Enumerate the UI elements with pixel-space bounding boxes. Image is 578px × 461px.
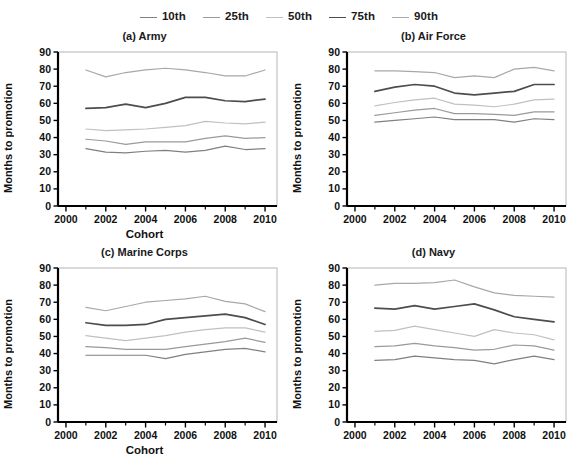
x-tick-label: 2004 — [134, 213, 158, 225]
series-line-75th — [375, 85, 554, 95]
legend-line-swatch-icon — [329, 17, 346, 18]
panel-title-navy: (d) Navy — [289, 246, 578, 258]
y-tick-label: 90 — [39, 262, 51, 274]
y-tick-label: 90 — [328, 262, 340, 274]
plot-area-panel-b: 0102030405060708090200020022004200620082… — [289, 28, 578, 244]
series-line-50th — [375, 98, 554, 107]
series-line-10th — [86, 348, 265, 358]
y-axis-label-air-force: Months to promotion — [291, 78, 305, 198]
series-line-50th — [375, 326, 554, 340]
plot-area-panel-c: 0102030405060708090200020022004200620082… — [0, 244, 289, 460]
x-tick-label: 2004 — [134, 429, 158, 441]
y-tick-label: 10 — [328, 182, 340, 194]
x-tick-label: 2000 — [54, 213, 78, 225]
legend-label: 50th — [288, 11, 312, 23]
legend-line-swatch-icon — [392, 17, 409, 18]
y-tick-label: 0 — [334, 416, 340, 428]
y-tick-label: 80 — [39, 63, 51, 75]
y-tick-label: 90 — [39, 46, 51, 58]
series-line-10th — [375, 356, 554, 364]
legend-item-90th: 90th — [392, 11, 438, 23]
legend-item-10th: 10th — [140, 11, 186, 23]
y-tick-label: 80 — [39, 279, 51, 291]
y-tick-label: 50 — [328, 114, 340, 126]
y-tick-label: 60 — [328, 313, 340, 325]
plot-area-panel-d: 0102030405060708090200020022004200620082… — [289, 244, 578, 460]
x-tick-label: 2004 — [423, 213, 447, 225]
y-tick-label: 20 — [39, 165, 51, 177]
series-line-75th — [86, 97, 265, 108]
panel-title-army: (a) Army — [0, 30, 289, 42]
y-axis-label-marine-corps: Months to promotion — [2, 294, 16, 414]
legend-label: 25th — [225, 11, 249, 23]
series-line-25th — [86, 136, 265, 145]
series-line-25th — [86, 338, 265, 349]
series-line-90th — [375, 67, 554, 77]
y-axis-label-army: Months to promotion — [2, 78, 16, 198]
series-line-10th — [375, 117, 554, 122]
y-tick-label: 50 — [39, 114, 51, 126]
legend-line-swatch-icon — [266, 17, 283, 18]
x-tick-label: 2006 — [174, 429, 198, 441]
y-tick-label: 40 — [39, 347, 51, 359]
x-tick-label: 2000 — [54, 429, 78, 441]
chart-panel-navy: 0102030405060708090200020022004200620082… — [289, 244, 578, 460]
x-tick-label: 2006 — [463, 213, 487, 225]
x-tick-label: 2008 — [214, 429, 238, 441]
series-line-90th — [375, 280, 554, 297]
y-tick-label: 60 — [39, 97, 51, 109]
y-tick-label: 10 — [39, 398, 51, 410]
plot-area-panel-a: 0102030405060708090200020022004200620082… — [0, 28, 289, 244]
y-tick-label: 0 — [45, 416, 51, 428]
series-line-90th — [86, 296, 265, 311]
x-tick-label: 2002 — [94, 213, 118, 225]
y-tick-label: 80 — [328, 279, 340, 291]
series-line-50th — [86, 121, 265, 130]
y-tick-label: 40 — [328, 131, 340, 143]
chart-panel-marine-corps: 0102030405060708090200020022004200620082… — [0, 244, 289, 460]
x-tick-label: 2010 — [253, 213, 277, 225]
series-line-25th — [375, 108, 554, 115]
y-tick-label: 20 — [328, 381, 340, 393]
legend-item-75th: 75th — [329, 11, 375, 23]
figure-quartile-months-to-promotion: 10th25th50th75th90th 0102030405060708090… — [0, 0, 578, 461]
chart-legend: 10th25th50th75th90th — [0, 6, 578, 28]
legend-label: 75th — [351, 11, 375, 23]
y-tick-label: 0 — [334, 200, 340, 212]
x-tick-label: 2008 — [503, 213, 527, 225]
y-tick-label: 30 — [39, 148, 51, 160]
legend-item-50th: 50th — [266, 11, 312, 23]
x-tick-label: 2008 — [214, 213, 238, 225]
x-tick-label: 2010 — [542, 429, 566, 441]
x-tick-label: 2002 — [94, 429, 118, 441]
y-axis-label-navy: Months to promotion — [291, 294, 305, 414]
y-tick-label: 10 — [39, 182, 51, 194]
y-tick-label: 80 — [328, 63, 340, 75]
y-tick-label: 30 — [328, 364, 340, 376]
legend-line-swatch-icon — [140, 17, 157, 18]
x-axis-label-army: Cohort — [0, 228, 289, 240]
legend-label: 10th — [162, 11, 186, 23]
series-line-75th — [86, 314, 265, 325]
y-tick-label: 50 — [328, 330, 340, 342]
x-axis-label-marine-corps: Cohort — [0, 444, 289, 456]
series-line-25th — [375, 343, 554, 350]
y-tick-label: 90 — [328, 46, 340, 58]
y-tick-label: 60 — [39, 313, 51, 325]
legend-label: 90th — [414, 11, 438, 23]
y-tick-label: 70 — [39, 296, 51, 308]
y-tick-label: 70 — [328, 296, 340, 308]
y-tick-label: 30 — [328, 148, 340, 160]
x-tick-label: 2002 — [383, 429, 407, 441]
legend-item-25th: 25th — [203, 11, 249, 23]
y-tick-label: 20 — [39, 381, 51, 393]
x-tick-label: 2000 — [343, 429, 367, 441]
y-tick-label: 30 — [39, 364, 51, 376]
y-tick-label: 20 — [328, 165, 340, 177]
x-tick-label: 2006 — [463, 429, 487, 441]
series-line-75th — [375, 304, 554, 322]
x-tick-label: 2006 — [174, 213, 198, 225]
x-tick-label: 2010 — [253, 429, 277, 441]
y-tick-label: 50 — [39, 330, 51, 342]
legend-line-swatch-icon — [203, 17, 220, 18]
